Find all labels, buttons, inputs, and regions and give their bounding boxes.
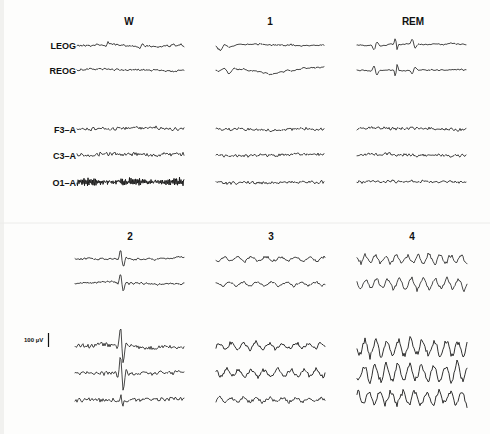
sleep-stage-figure: W 1 REM LEOG REOG F3–A C3–A O1–A 2 3 4 1… [0,0,490,434]
stage-title-rem: REM [402,16,424,27]
trace-3-f3a [216,341,325,352]
trace-2-f3a [75,329,184,363]
trace-1-c3a [216,153,324,157]
trace-rem-o1a [357,180,466,184]
trace-w-f3a [77,126,184,131]
trace-3-reog [216,281,325,287]
trace-2-reog [75,275,184,291]
trace-4-f3a [357,337,467,360]
trace-rem-f3a [357,127,466,132]
trace-4-c3a [357,360,467,384]
page-edge [0,0,4,434]
trace-3-c3a [216,367,325,378]
trace-w-o1a [77,177,184,186]
stage-title-1: 1 [267,16,273,27]
channel-label-f3a: F3–A [54,125,77,135]
stage-title-w: W [124,16,134,27]
trace-2-c3a [75,358,184,391]
trace-w-leog [77,42,184,49]
trace-rem-leog [357,39,466,50]
trace-4-reog [357,277,467,292]
trace-1-f3a [216,127,324,131]
trace-w-c3a [77,152,184,157]
channel-label-leog: LEOG [50,41,76,51]
scale-bar-label: 100 µV [24,337,43,343]
stage-title-2: 2 [127,231,133,242]
trace-3-o1a [216,396,325,404]
channel-label-reog: REOG [49,66,76,76]
trace-4-leog [357,253,467,265]
trace-4-o1a [357,389,467,407]
trace-1-leog [216,43,324,50]
trace-3-leog [216,256,325,263]
trace-rem-c3a [357,153,466,158]
trace-1-reog [216,67,324,75]
channel-label-o1a: O1–A [52,178,76,188]
trace-1-o1a [216,181,324,185]
stage-title-3: 3 [268,231,274,242]
trace-w-reog [77,68,184,72]
trace-2-leog [75,251,184,266]
trace-2-o1a [75,395,184,407]
channel-label-c3a: C3–A [53,151,77,161]
stage-title-4: 4 [409,231,415,242]
trace-rem-reog [357,65,466,76]
